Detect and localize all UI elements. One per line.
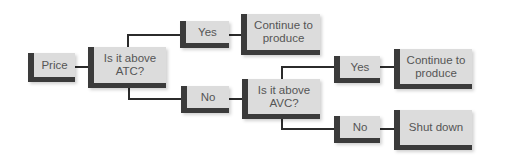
node-yes-2-label: Yes [351, 61, 370, 74]
node-question-above-avc-label: Is it above AVC? [253, 84, 315, 110]
node-question-above-avc: Is it above AVC? [242, 79, 320, 119]
connector-yes1-continue1 [229, 34, 241, 36]
connector-avc-yes-vertical [281, 66, 283, 79]
node-price-label: Price [41, 59, 67, 72]
connector-atc-no-horizontal [128, 98, 181, 100]
node-no-2-label: No [353, 121, 368, 134]
connector-yes2-continue2 [380, 66, 394, 68]
node-no-2: No [334, 116, 380, 143]
node-yes-2: Yes [334, 56, 380, 83]
connector-atc-yes-vertical [127, 34, 129, 47]
connector-avc-yes-horizontal [281, 66, 334, 68]
connector-no2-shutdown [380, 128, 394, 130]
node-no-1: No [181, 86, 229, 113]
node-shut-down: Shut down [394, 110, 472, 150]
node-no-1-label: No [201, 91, 216, 104]
node-continue-to-produce-2: Continue to produce [394, 49, 472, 89]
connector-atc-yes-horizontal [127, 34, 181, 36]
node-continue-to-produce-2-label: Continue to produce [403, 54, 469, 80]
connector-avc-no-horizontal [281, 128, 334, 130]
node-continue-to-produce-1-label: Continue to produce [251, 19, 317, 45]
node-question-above-atc-label: Is it above ATC? [99, 52, 161, 78]
node-yes-1: Yes [180, 21, 229, 48]
node-price: Price [28, 53, 75, 82]
node-continue-to-produce-1: Continue to produce [241, 14, 320, 55]
connector-price-atc [75, 66, 88, 68]
node-question-above-atc: Is it above ATC? [88, 47, 166, 88]
node-yes-1-label: Yes [198, 26, 217, 39]
node-shut-down-label: Shut down [409, 121, 463, 134]
connector-no1-avc [229, 98, 242, 100]
